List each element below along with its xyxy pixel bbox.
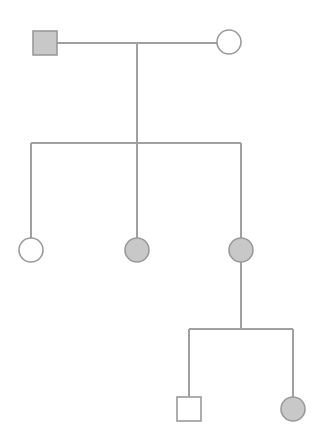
gen2-daughter-1-unaffected-female-circle-icon: [19, 238, 43, 262]
gen3-son-unaffected-male-square-icon: [177, 397, 201, 421]
individuals: [19, 30, 305, 421]
pedigree-diagram: [0, 0, 322, 448]
gen3-daughter-affected-female-circle-icon: [281, 397, 305, 421]
gen2-daughter-2-affected-female-circle-icon: [125, 238, 149, 262]
gen2-daughter-3-affected-female-circle-icon: [229, 238, 253, 262]
gen1-mother-unaffected-female-circle-icon: [217, 30, 241, 54]
pedigree-chart: [0, 0, 322, 448]
connector-lines: [31, 43, 293, 397]
gen1-father-affected-male-square-icon: [33, 31, 57, 55]
